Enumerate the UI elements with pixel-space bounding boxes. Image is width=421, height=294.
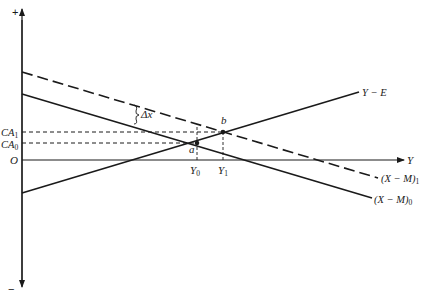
- y1-label: Y1: [218, 164, 228, 178]
- shift-annotation: Δx: [134, 105, 152, 124]
- line-y-minus-e: Y − E: [22, 87, 387, 193]
- line-xm0: (X − M)0: [22, 94, 413, 207]
- ca0-label: CA0: [1, 139, 18, 152]
- delta-x-label: Δx: [140, 108, 152, 120]
- ye-label: Y − E: [362, 87, 387, 98]
- horizontal-axis-label-y: Y: [407, 154, 415, 166]
- xm0-label: (X − M)0: [374, 194, 413, 207]
- point-a: a: [189, 141, 199, 155]
- horizontal-axis: Y O: [10, 154, 415, 166]
- point-a-label: a: [189, 143, 195, 155]
- open-economy-diagram: + − Y O CA1 CA0 Y0 Y1 (X − M)1: [0, 0, 421, 294]
- y0-label: Y0: [190, 164, 200, 178]
- xm1-label: (X − M)1: [381, 173, 420, 186]
- point-b-label: b: [221, 114, 227, 126]
- vertical-axis-negative-sign: −: [8, 283, 14, 294]
- vertical-axis-positive-sign: +: [12, 6, 18, 18]
- origin-label: O: [10, 154, 18, 166]
